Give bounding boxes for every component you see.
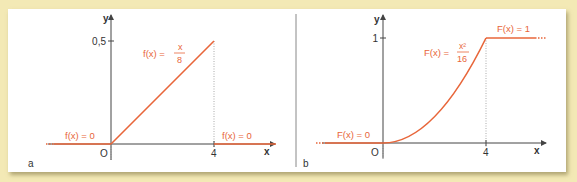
annotation-right: F(x) = 1 — [497, 23, 530, 34]
y-axis-label: y — [103, 13, 109, 24]
annotation-right: f(x) = 0 — [222, 130, 252, 141]
chart-svg: y x 0,5 O 4 a f(x) = 0 f(x) = 0 f(x) = x… — [0, 0, 577, 182]
annotation-left: F(x) = 0 — [337, 129, 370, 140]
annotation-middle-numerator: x — [178, 42, 183, 52]
panel-b: y x 1 O 4 b F(x) = 0 F(x) = 1 F(x) = x² … — [303, 14, 547, 169]
annotation-middle-prefix: f(x) = — [143, 48, 165, 59]
annotation-middle-denominator: 8 — [177, 55, 182, 65]
annotation-middle-denominator: 16 — [457, 54, 467, 64]
origin-label: O — [100, 148, 108, 159]
ytick-label: 1 — [372, 33, 378, 44]
xtick-label: 4 — [483, 147, 489, 158]
annotation-left: f(x) = 0 — [65, 130, 95, 141]
origin-label: O — [371, 147, 379, 158]
panel-a: y x 0,5 O 4 a f(x) = 0 f(x) = 0 f(x) = x… — [28, 13, 276, 169]
y-axis-label: y — [374, 14, 380, 25]
annotation-middle-prefix: F(x) = — [424, 47, 450, 58]
panel-label: a — [28, 158, 34, 169]
x-axis-label: x — [264, 146, 270, 157]
xtick-label: 4 — [211, 148, 217, 159]
ytick-label: 0,5 — [92, 36, 106, 47]
annotation-middle-numerator: x² — [459, 41, 466, 51]
panel-label: b — [303, 158, 309, 169]
x-axis-label: x — [534, 145, 540, 156]
